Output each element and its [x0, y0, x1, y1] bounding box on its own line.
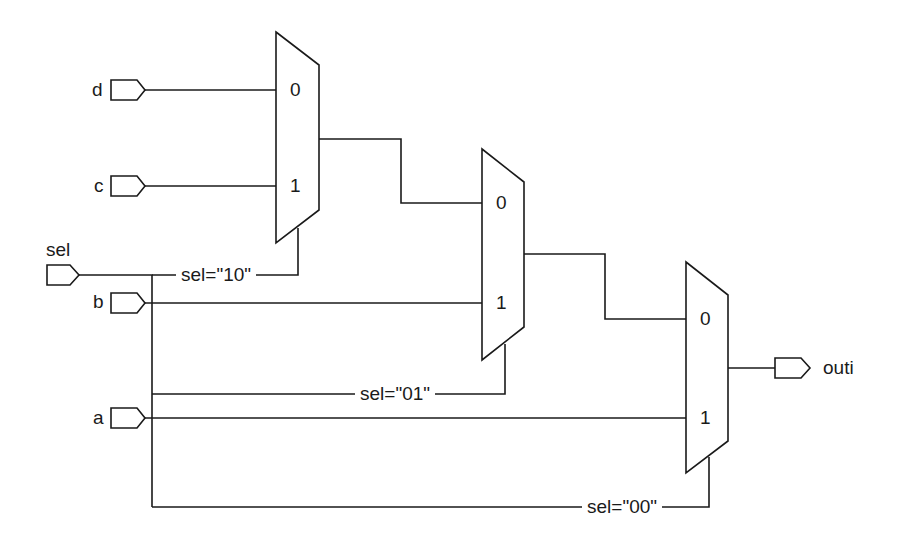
- port-b-icon: [111, 293, 145, 313]
- port-c-icon: [111, 176, 145, 196]
- port-a-icon: [111, 408, 145, 428]
- input-label-c: c: [94, 176, 104, 195]
- mux1-in0-label: 0: [290, 80, 301, 99]
- circuit-diagram: [0, 0, 910, 540]
- port-d-icon: [111, 80, 145, 100]
- port-outi-icon: [775, 358, 810, 378]
- select-label-mux3: sel="00": [582, 497, 662, 516]
- input-label-a: a: [93, 408, 104, 427]
- mux3-in0-label: 0: [700, 309, 711, 328]
- input-label-d: d: [92, 80, 103, 99]
- select-label-mux2: sel="01": [355, 384, 435, 403]
- wire-sel-01: [152, 344, 505, 394]
- input-label-b: b: [93, 292, 104, 311]
- wire-mux2-out: [524, 254, 686, 319]
- mux1-body: [276, 32, 319, 243]
- wire-sel-bus: [79, 275, 152, 507]
- mux2-in1-label: 1: [496, 293, 507, 312]
- output-label-outi: outi: [823, 358, 854, 377]
- wire-mux1-out: [319, 139, 482, 203]
- mux2-in0-label: 0: [496, 193, 507, 212]
- mux2-body: [482, 149, 524, 360]
- mux3-body: [686, 262, 728, 473]
- mux3-in1-label: 1: [700, 408, 711, 427]
- mux1-in1-label: 1: [290, 176, 301, 195]
- input-label-sel: sel: [46, 240, 70, 259]
- port-sel-icon: [47, 265, 79, 285]
- select-label-mux1: sel="10": [176, 265, 256, 284]
